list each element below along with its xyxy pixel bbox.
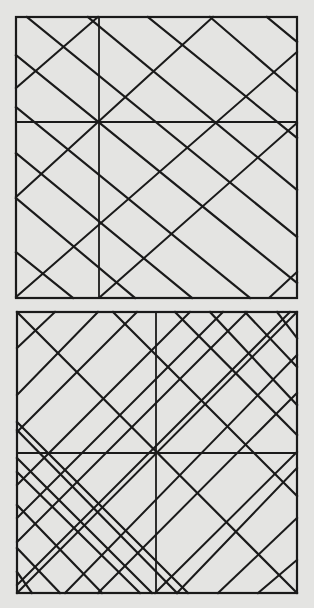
bottom-square-panel [17, 312, 297, 593]
rising-diagonal-line [270, 272, 297, 297]
rising-diagonal-line [100, 123, 297, 297]
falling-diagonal-line [267, 17, 297, 42]
rising-diagonal-line [16, 17, 213, 197]
falling-diagonal-line [27, 17, 297, 237]
falling-diagonal-line [16, 107, 250, 298]
falling-diagonal-line [16, 252, 73, 298]
line-pattern-figure [0, 0, 314, 608]
rising-diagonal-line [16, 17, 98, 88]
falling-diagonal-line [16, 153, 192, 298]
falling-diagonal-line [148, 17, 297, 138]
falling-diagonal-line [210, 17, 297, 92]
diagram-canvas [0, 0, 314, 608]
top-square-panel [16, 17, 297, 298]
